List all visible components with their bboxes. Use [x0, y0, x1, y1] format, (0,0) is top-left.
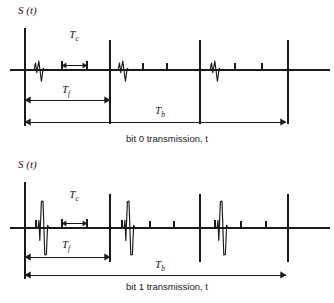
bit0-tf-arrow-head-right: [105, 97, 111, 103]
bit1-tf-arrow-head-left: [25, 254, 31, 260]
bit0-tc-arrow-head-left: [62, 63, 66, 68]
bit1-tc-label: Tc: [69, 188, 79, 203]
bit1-axis-label: S (t): [18, 158, 37, 171]
bit0-tb-arrow-head-right: [281, 119, 287, 125]
bit0-pulse-0: [34, 61, 48, 81]
bit0-pulse-1: [118, 61, 132, 81]
bit0-tf-label: Tf: [62, 83, 71, 98]
bit0-transmission-panel: S (t)TcTfTbbit 0 transmission, t: [0, 0, 334, 151]
bit0-caption: bit 0 transmission, t: [126, 133, 208, 144]
bit1-tf-arrow-head-right: [105, 254, 111, 260]
bit1-waveform-svg: S (t)TcTfTbbit 1 transmission, t: [0, 152, 334, 303]
bit1-tb-label: Tb: [155, 258, 165, 273]
bit1-caption: bit 1 transmission, t: [126, 281, 208, 292]
bit0-waveform-svg: S (t)TcTfTbbit 0 transmission, t: [0, 0, 334, 151]
bit1-transmission-panel: S (t)TcTfTbbit 1 transmission, t: [0, 152, 334, 303]
bit0-tc-label: Tc: [69, 28, 79, 43]
bit0-pulse-4: [210, 61, 224, 81]
bit0-axis-label: S (t): [18, 4, 37, 17]
bit0-tf-arrow-head-left: [25, 97, 31, 103]
bit1-tf-label: Tf: [62, 238, 71, 253]
bit1-tb-arrow-head-right: [281, 272, 287, 278]
bit0-tc-arrow-head-right: [83, 63, 87, 68]
bit0-tb-label: Tb: [155, 104, 165, 119]
bit1-tb-arrow-head-left: [25, 272, 31, 278]
bit1-tc-arrow-head-left: [62, 221, 66, 226]
bit1-tc-arrow-head-right: [83, 221, 87, 226]
bit0-tb-arrow-head-left: [25, 119, 31, 125]
